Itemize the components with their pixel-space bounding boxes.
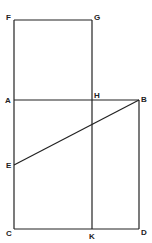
label-c: C [6,229,12,238]
label-f: F [6,13,11,22]
label-g: G [94,13,100,22]
label-k: K [89,232,95,241]
point-labels: F G A H B E C K D [5,13,147,241]
label-b: B [141,95,147,104]
label-a: A [5,96,11,105]
label-h: H [94,91,100,100]
geometry-diagram: F G A H B E C K D [0,0,152,243]
segments [14,20,139,229]
label-e: E [6,161,12,170]
label-d: D [141,228,147,237]
segment-eb [14,100,139,165]
